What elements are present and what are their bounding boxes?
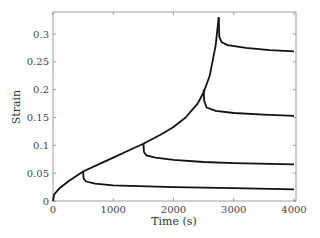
y-tick-label: 0.1 [33,140,49,151]
series-line [143,144,294,165]
y-tick-label: 0 [43,196,49,207]
x-axis-label: Time (s) [151,215,197,228]
y-tick-label: 0.25 [27,56,49,67]
chart: 0100020003000400000.050.10.150.20.250.3 … [0,0,320,238]
y-tick-label: 0.2 [33,84,49,95]
series-line [204,90,294,116]
x-tick-label: 2000 [161,204,186,215]
series-line [83,172,294,190]
y-tick-label: 0.05 [27,168,49,179]
x-tick-label: 1000 [101,204,126,215]
x-tick-label: 0 [50,204,56,215]
x-tick-label: 4000 [281,204,306,215]
axes: 0100020003000400000.050.10.150.20.250.3 [27,12,307,215]
x-tick-label: 3000 [221,204,246,215]
series-line [219,17,294,51]
y-tick-label: 0.3 [33,29,49,40]
series-line [53,17,219,201]
data-lines [53,17,294,201]
y-tick-label: 0.15 [27,112,49,123]
y-axis-label: Strain [10,90,23,124]
